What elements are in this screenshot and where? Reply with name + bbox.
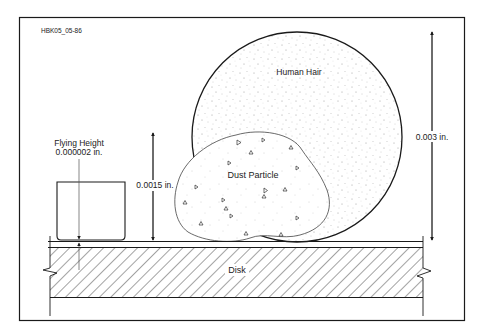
dust-label: Dust Particle xyxy=(227,170,278,180)
dust-height-label: 0.0015 in. xyxy=(136,180,173,190)
hair-height-label: 0.003 in. xyxy=(416,132,449,142)
head-slider xyxy=(57,182,125,240)
flying-height-value: 0.000002 in. xyxy=(56,147,103,157)
diagram-canvas: HBK05_05-86 Human Hair D xyxy=(0,0,477,336)
hair-label: Human Hair xyxy=(276,67,322,77)
disk-label: Disk xyxy=(228,265,246,275)
figure-id: HBK05_05-86 xyxy=(41,27,82,35)
